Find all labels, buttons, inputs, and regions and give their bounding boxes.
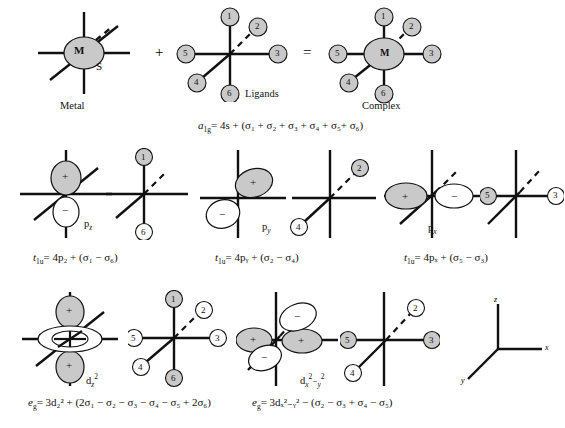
pz-ligand-label-1: 1 <box>141 152 146 162</box>
ligands-caption: Ligands <box>245 88 279 99</box>
pz-sign-negative: − <box>62 204 68 216</box>
dx2y2-ligand-label-3: 3 <box>429 335 434 345</box>
dz2-ligand-label-4: 4 <box>138 362 143 372</box>
equation-t1u-px: t1u= 4pₓ + (σ₅ − σ₃) <box>404 251 488 266</box>
px-ligand-diagram <box>480 148 564 240</box>
pz-orbital-subscript: z <box>89 223 92 232</box>
py-orbital-diagram <box>196 148 292 240</box>
ligand-label-4: 4 <box>194 77 199 87</box>
equation-t1u-pz-body: = 4p₂ + (σ₁ − σ₆) <box>44 251 118 263</box>
equation-t1u-py: t1u= 4pᵧ + (σ₂ − σ₄) <box>215 251 299 266</box>
py-sign-positive: + <box>250 176 256 188</box>
py-ligand-diagram <box>288 148 380 240</box>
py-orbital-label: py <box>262 221 271 235</box>
dz2-orbital-diagram <box>18 290 128 388</box>
px-orbital-label: px <box>428 222 437 236</box>
equation-a1g-subscript: 1g <box>204 125 212 134</box>
equation-eg-dz2-body: = 3d₂² + (2σ₁ − σ₂ − σ₃ − σ₄ − σ₅ + 2σ₆) <box>37 396 211 408</box>
metal-orbital-label: S <box>96 60 102 72</box>
dx2y2-orbital-superscript-y: 2 <box>321 372 325 381</box>
dz2-ligand-label-6: 6 <box>171 373 176 383</box>
pz-orbital-label: pz <box>84 218 92 232</box>
ligand-label-1: 1 <box>227 11 232 21</box>
complex-ligand-label-2: 2 <box>409 21 414 31</box>
py-dashed-bond <box>330 174 354 198</box>
dz2-sign-top: + <box>66 304 72 316</box>
px-sign-negative: − <box>451 190 457 202</box>
pz-ligand-label-6: 6 <box>141 227 146 237</box>
complex-center-label: M <box>380 47 389 58</box>
dz2-sign-bottom: + <box>66 359 72 371</box>
operator-equals: = <box>303 44 311 61</box>
ligand-label-2: 2 <box>255 21 260 31</box>
dx2y2-sign-upper: − <box>294 310 300 322</box>
equation-t1u-pz-subscript: 1u <box>36 257 44 266</box>
axis-label-y: y <box>461 376 465 385</box>
py-orbital-subscript: y <box>267 226 270 235</box>
dx2y2-ligand-label-4: 4 <box>350 368 355 378</box>
metal-caption: Metal <box>60 100 85 111</box>
dx2y2-sign-left: + <box>250 333 256 345</box>
equation-t1u-pz: t1u= 4p₂ + (σ₁ − σ₆) <box>33 251 118 266</box>
py-sign-negative: − <box>219 208 225 220</box>
px-ligand-label-5: 5 <box>485 190 490 200</box>
py-ligand-label-2: 2 <box>357 163 362 173</box>
complex-ligand-label-4: 4 <box>346 77 351 87</box>
dz2-orbital-superscript: 2 <box>94 372 98 381</box>
pz-sign-positive: + <box>62 170 68 182</box>
ligand-label-5: 5 <box>183 48 188 58</box>
equation-t1u-py-body: = 4pᵧ + (σ₂ − σ₄) <box>226 251 299 263</box>
px-orbital-subscript: x <box>433 227 436 236</box>
pz-dashed-bond <box>144 172 166 194</box>
px-sign-positive: + <box>402 190 408 202</box>
dz2-ligand-label-1: 1 <box>171 294 176 304</box>
equation-a1g-body: = 4s + (σ₁ + σ₂ + σ₃ + σ₄ + σ₅+ σ₆) <box>211 119 363 131</box>
dz2-orbital-label: dz2 <box>86 372 98 389</box>
pz-ligand-diagram <box>104 148 192 240</box>
complex-ligand-label-1: 1 <box>381 11 386 21</box>
equation-eg-dx2y2: eg= 3dₓ²₋ᵧ² − (σ₂ − σ₃ + σ₄ − σ₅) <box>252 396 393 411</box>
complex-caption: Complex <box>362 100 401 111</box>
ligand-label-6: 6 <box>227 88 232 98</box>
dx2y2-ligand-label-5: 5 <box>345 335 350 345</box>
figure-canvas: M S Metal + 1 2 3 4 5 6 Ligands = <box>0 0 565 428</box>
equation-t1u-px-subscript: 1u <box>407 257 415 266</box>
complex-ligand-label-6: 6 <box>381 88 386 98</box>
dz2-ligand-label-3: 3 <box>215 333 220 343</box>
axis-label-z: z <box>494 295 497 304</box>
dz2-ligand-label-5: 5 <box>131 333 136 343</box>
equation-eg-dz2: eg= 3d₂² + (2σ₁ − σ₂ − σ₃ − σ₄ − σ₅ + 2σ… <box>28 396 211 411</box>
dx2y2-orbital-label: dx2−y2 <box>300 372 325 389</box>
px-ligand-label-3: 3 <box>553 190 558 200</box>
pz-orbital-diagram <box>14 148 118 240</box>
coordinate-axes-diagram <box>460 294 560 386</box>
operator-plus: + <box>155 44 163 61</box>
dz2-dashed-bond <box>174 316 196 338</box>
px-lig-dashed-bond <box>520 170 540 192</box>
complex-ligand-label-5: 5 <box>335 48 340 58</box>
axis-label-x: x <box>545 343 549 352</box>
dx2y2-sign-lower: − <box>261 351 267 363</box>
dx2y2-ligand-diagram <box>340 290 440 388</box>
dz2-ligand-label-2: 2 <box>201 305 206 315</box>
equation-a1g: a1g= 4s + (σ₁ + σ₂ + σ₃ + σ₄ + σ₅+ σ₆) <box>198 119 363 134</box>
complex-ligand-label-3: 3 <box>429 48 434 58</box>
ligand-dashed-bond <box>230 32 252 54</box>
dx2y2-ligand-label-2: 2 <box>413 303 418 313</box>
equation-t1u-px-body: = 4pₓ + (σ₅ − σ₃) <box>415 251 488 263</box>
metal-center-label: M <box>74 44 84 56</box>
equation-t1u-py-subscript: 1u <box>218 257 226 266</box>
py-ligand-label-4: 4 <box>296 222 301 232</box>
ligand-label-3: 3 <box>275 48 280 58</box>
dx2y2-lig-dashed-bond <box>386 314 410 340</box>
dx2y2-sign-right: + <box>298 334 304 346</box>
equation-eg-dx2y2-body: = 3dₓ²₋ᵧ² − (σ₂ − σ₃ + σ₄ − σ₅) <box>261 396 393 408</box>
